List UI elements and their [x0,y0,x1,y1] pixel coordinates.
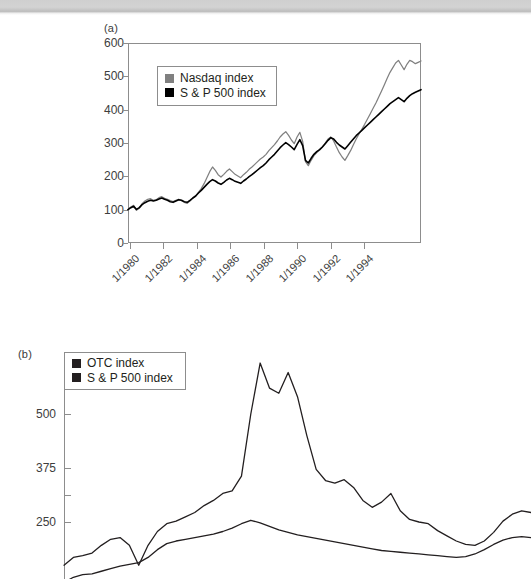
series-line-b-1 [64,520,531,579]
legend-label-sp500-b: S & P 500 index [87,371,173,386]
scanned-page-edge-band [0,0,531,13]
figure-page: (a) 0100200300400500600 1/19801/19821/19… [0,0,531,579]
legend-item-otc: OTC index [72,356,173,371]
legend-swatch-sp500 [165,88,174,97]
legend-item-sp500: S & P 500 index [165,86,266,101]
legend-a: Nasdaq index S & P 500 index [157,66,277,106]
legend-label-otc: OTC index [87,356,144,371]
chart-panel-b: (b) 500375250 OTC index S & P 500 index [0,340,531,579]
legend-swatch-nasdaq [165,74,174,83]
legend-item-nasdaq: Nasdaq index [165,71,266,86]
series-line-a-1 [128,90,421,210]
series-lines-a [0,18,531,308]
legend-label-sp500: S & P 500 index [180,86,266,101]
legend-swatch-sp500-b [72,373,81,382]
legend-item-sp500-b: S & P 500 index [72,371,173,386]
legend-swatch-otc [72,359,81,368]
chart-panel-a: (a) 0100200300400500600 1/19801/19821/19… [0,18,531,308]
legend-b: OTC index S & P 500 index [64,352,186,390]
legend-label-nasdaq: Nasdaq index [180,71,253,86]
scanned-page-edge-shadow [0,13,531,15]
